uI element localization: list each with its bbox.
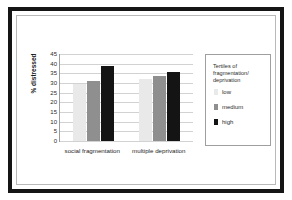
bar-high <box>167 72 180 141</box>
legend-item-medium[interactable]: medium <box>214 104 243 110</box>
legend-item-low[interactable]: low <box>214 89 231 95</box>
legend-item-high[interactable]: high <box>214 119 233 125</box>
legend-label: medium <box>222 104 243 110</box>
bar-low <box>73 84 86 141</box>
legend-swatch-low-icon <box>214 89 218 95</box>
y-axis-tick-label: 5 <box>54 128 57 134</box>
y-axis-tick-label: 10 <box>50 119 57 125</box>
y-axis-tick-label: 25 <box>50 90 57 96</box>
y-axis-tick-label: 15 <box>50 109 57 115</box>
bar-low <box>139 79 152 141</box>
bar-group <box>139 54 180 141</box>
legend-label: high <box>222 119 233 125</box>
y-axis-title: % distressed <box>30 39 37 109</box>
legend-swatch-medium-icon <box>214 104 218 110</box>
y-axis-tick-label: 35 <box>50 70 57 76</box>
y-axis-tick-label: 30 <box>50 80 57 86</box>
bar-medium <box>153 76 166 141</box>
y-axis-tick-label: 40 <box>50 61 57 67</box>
x-axis-label: social fragmentation <box>59 147 126 154</box>
y-axis-tick-label: 0 <box>54 138 57 144</box>
y-axis-tick-label: 45 <box>50 51 57 57</box>
gridline: 0 <box>60 141 193 142</box>
picture-frame: % distressed 454035302520151050 social f… <box>8 7 284 193</box>
legend-swatch-high-icon <box>214 119 218 125</box>
plot-area: 454035302520151050 <box>59 54 193 142</box>
bar-high <box>101 66 114 141</box>
y-axis-tick-label: 20 <box>50 99 57 105</box>
legend-label: low <box>222 89 231 95</box>
chart-legend: Tertiles of fragmentation/ deprivation l… <box>205 54 271 146</box>
legend-title: Tertiles of fragmentation/ deprivation <box>213 63 269 84</box>
bar-chart: % distressed 454035302520151050 social f… <box>17 16 275 184</box>
inner-frame: % distressed 454035302520151050 social f… <box>16 15 276 185</box>
bar-group <box>73 54 114 141</box>
x-axis-label: multiple deprivation <box>126 147 193 154</box>
bar-medium <box>87 81 100 141</box>
